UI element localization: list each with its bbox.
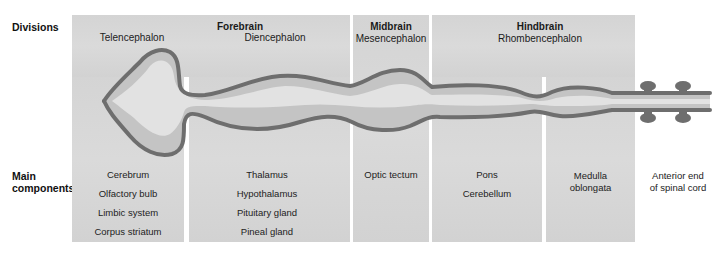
subdivision-diencephalon: Diencephalon: [225, 32, 325, 43]
component-item: Cerebrum: [72, 165, 184, 184]
metencephalon-components: Pons Cerebellum: [432, 165, 542, 203]
division-midbrain: Midbrain Mesencephalon: [353, 21, 429, 45]
component-item: Olfactory bulb: [72, 184, 184, 203]
subdivision-mesencephalon: Mesencephalon: [356, 33, 427, 44]
component-item: Corpus striatum: [72, 222, 184, 241]
subdivision-rhombencephalon: Rhombencephalon: [498, 33, 582, 44]
component-item: of spinal cord: [636, 182, 720, 194]
component-item: Optic tectum: [353, 165, 429, 184]
hindbrain-title: Hindbrain: [480, 21, 600, 33]
component-item: Pituitary gland: [212, 203, 322, 222]
mesencephalon-components: Optic tectum: [353, 165, 429, 184]
component-item: Pineal gland: [212, 222, 322, 241]
component-item: Anterior end: [636, 170, 720, 182]
component-item: oblongata: [546, 182, 635, 194]
component-item: Hypothalamus: [212, 184, 322, 203]
division-hindbrain: Hindbrain Rhombencephalon: [480, 21, 600, 45]
diencephalon-components: Thalamus Hypothalamus Pituitary gland Pi…: [212, 165, 322, 241]
component-item: Pons: [432, 165, 542, 184]
component-item: Thalamus: [212, 165, 322, 184]
spinal-cord-components: Anterior end of spinal cord: [636, 170, 720, 194]
component-item: Medulla: [546, 170, 635, 182]
component-item: Limbic system: [72, 203, 184, 222]
midbrain-title: Midbrain: [353, 21, 429, 33]
telencephalon-components: Cerebrum Olfactory bulb Limbic system Co…: [72, 165, 184, 241]
subdivision-telencephalon: Telencephalon: [82, 32, 182, 43]
component-item: Cerebellum: [432, 184, 542, 203]
myelencephalon-components: Medulla oblongata: [546, 170, 635, 194]
